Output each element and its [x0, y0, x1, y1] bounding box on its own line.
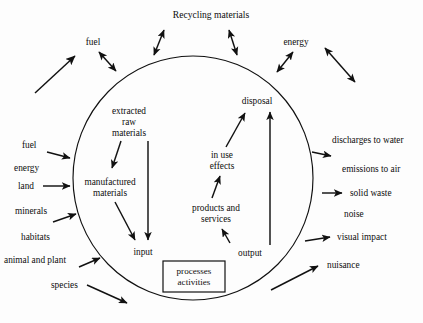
input-arrow-fuel: [47, 152, 70, 158]
input-label-species: species: [51, 280, 78, 290]
top-right-long-double-arrow: [325, 48, 355, 82]
input-arrow-minerals: [53, 214, 76, 222]
input-node-label: input: [133, 247, 153, 257]
output-arrow-visual-impact: [305, 237, 330, 241]
output-arrow-nuisance: [271, 266, 318, 290]
in-use-effects-line2: effects: [210, 161, 235, 171]
output-label-emissions-to-air: emissions to air: [342, 164, 401, 174]
output-label-noise: noise: [344, 209, 364, 219]
input-label-land: land: [18, 181, 34, 191]
output-label-visual-impact: visual impact: [337, 232, 387, 242]
input-label-animal-and-plant: animal and plant: [4, 255, 66, 265]
arrow-products-to-in-use-effects: [212, 176, 220, 198]
output-label-discharges-to-water: discharges to water: [332, 135, 405, 145]
top-energy-label: energy: [283, 37, 308, 47]
energy-double-arrow: [277, 52, 293, 72]
in-use-effects-line1: in use: [211, 150, 233, 160]
manufactured-materials-line2: materials: [93, 188, 127, 198]
recycling-arrow-left: [154, 30, 164, 55]
recycling-arrow-right: [229, 30, 237, 55]
input-label-habitats: habitats: [21, 232, 50, 242]
arrow-manufactured-to-input: [115, 202, 135, 240]
system-boundary-diagram: Recycling materials fuel energy fuel ene…: [0, 0, 423, 323]
input-arrow-animal-and-plant: [79, 258, 100, 267]
arrow-extracted-to-manufactured: [112, 141, 121, 168]
activities-label: activities: [178, 277, 211, 287]
arrow-output-to-products: [222, 229, 230, 243]
input-label-fuel: fuel: [22, 140, 37, 150]
output-label-solid-waste: solid waste: [350, 188, 392, 198]
arrow-in-use-effects-to-disposal: [226, 113, 245, 147]
manufactured-materials-line1: manufactured: [84, 177, 135, 187]
products-and-services-line2: services: [201, 214, 231, 224]
output-label-nuisance: nuisance: [327, 260, 360, 270]
output-node-label: output: [238, 248, 262, 258]
extracted-raw-materials-line3: materials: [112, 128, 146, 138]
input-label-minerals: minerals: [15, 206, 47, 216]
top-left-long-arrow: [35, 56, 75, 93]
disposal-label: disposal: [242, 96, 273, 106]
processes-label: processes: [177, 266, 212, 276]
input-arrow-species: [87, 285, 127, 303]
diagram-page: Recycling materials fuel energy fuel ene…: [0, 0, 423, 323]
output-arrow-discharges-to-water: [312, 152, 331, 156]
recycling-materials-label: Recycling materials: [173, 9, 250, 20]
products-and-services-line1: products and: [192, 203, 240, 213]
fuel-double-arrow: [99, 52, 116, 71]
top-fuel-label: fuel: [86, 37, 101, 47]
extracted-raw-materials-line2: raw: [122, 117, 136, 127]
extracted-raw-materials-line1: extracted: [112, 106, 146, 116]
input-label-energy: energy: [14, 163, 39, 173]
